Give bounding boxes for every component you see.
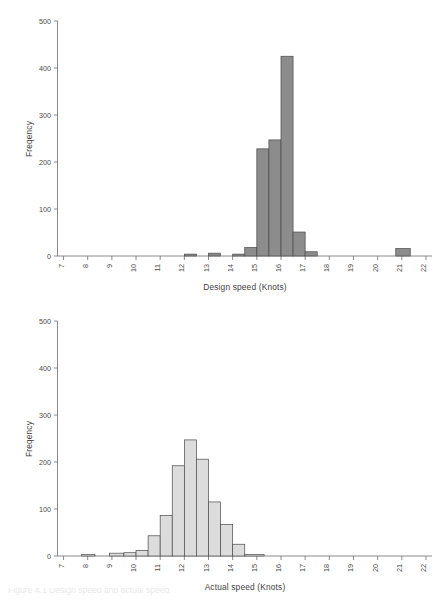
design-speed-bar [305,252,317,256]
actual-speed-bar [148,536,160,556]
design-speed-y-tick-label: 300 [39,111,51,120]
figure-caption: Figure 4.1 Design speed and actual speed [8,588,169,595]
actual-speed-x-tick-label: 7 [57,564,66,568]
design-speed-x-tick-label: 20 [371,264,380,272]
design-speed-x-tick-label: 14 [226,264,235,272]
actual-speed-y-tick-label: 400 [39,364,51,373]
actual-speed-x-tick-label: 14 [226,564,235,572]
actual-speed-bar [172,466,184,556]
y-tick-group-top: 0100200300400500 [39,17,58,261]
actual-speed-x-tick-label: 12 [177,564,186,572]
actual-speed-x-tick-label: 11 [153,564,162,571]
actual-speed-y-tick-label: 300 [39,411,51,420]
design-speed-x-tick-label: 16 [274,264,283,272]
actual-speed-histogram-svg: 0100200300400500 78910111213141516171819… [0,300,441,600]
actual-speed-bar [109,553,123,556]
actual-speed-x-tick-label: 19 [346,564,355,572]
design-speed-bar [396,248,410,256]
actual-speed-bar [184,440,196,556]
actual-speed-bar [124,553,136,556]
actual-speed-bar [233,544,245,556]
actual-speed-bar [82,555,95,556]
design-speed-bar [293,232,305,256]
design-speed-x-tick-label: 18 [322,264,331,272]
design-speed-x-tick-label: 21 [395,264,404,272]
actual-speed-x-tick-label: 16 [274,564,283,572]
design-speed-x-tick-label: 15 [250,264,259,272]
plot-area-top: 0100200300400500 78910111213141516171819… [39,17,432,272]
design-speed-y-tick-label: 200 [39,158,51,167]
actual-speed-x-tick-label: 18 [322,564,331,572]
actual-speed-x-tick-label: 17 [298,564,307,572]
design-speed-chart-panel: 0100200300400500 78910111213141516171819… [0,0,441,300]
design-speed-y-tick-label: 100 [39,205,51,214]
actual-speed-x-tick-label: 13 [202,564,211,572]
y-tick-group-bottom: 0100200300400500 [39,317,58,561]
plot-area-bottom: 0100200300400500 78910111213141516171819… [39,317,432,572]
design-speed-x-tick-label: 19 [346,264,355,272]
x-axis-title-top: Design speed (Knots) [203,282,287,292]
design-speed-bar [233,254,245,256]
actual-speed-chart-panel: 0100200300400500 78910111213141516171819… [0,300,441,600]
actual-speed-x-tick-label: 15 [250,564,259,572]
figure-caption-strip: Figure 4.1 Design speed and actual speed [0,588,441,602]
actual-speed-x-tick-label: 8 [81,564,90,568]
design-speed-x-tick-label: 10 [129,264,138,272]
x-tick-group-top: 78910111213141516171819202122 [57,256,428,272]
x-tick-group-bottom: 78910111213141516171819202122 [57,556,428,572]
design-speed-bar [269,140,281,256]
actual-speed-x-tick-label: 9 [105,564,114,568]
actual-speed-x-tick-label: 22 [419,564,428,572]
actual-speed-y-tick-label: 500 [39,317,51,326]
actual-speed-bar [245,555,264,556]
actual-speed-x-tick-label: 21 [395,564,404,572]
actual-speed-y-tick-label: 200 [39,458,51,467]
design-speed-x-tick-label: 22 [419,264,428,272]
design-speed-bar [281,56,293,256]
actual-speed-bar [136,550,148,556]
actual-speed-bar [209,502,221,556]
design-speed-x-tick-label: 13 [202,264,211,272]
design-speed-x-tick-label: 9 [105,264,114,268]
figure-container: 0100200300400500 78910111213141516171819… [0,0,441,602]
design-speed-x-tick-label: 8 [81,264,90,268]
bar-group-bottom [82,440,264,556]
design-speed-y-tick-label: 0 [47,252,51,261]
bar-group-top [184,56,410,256]
design-speed-x-tick-label: 11 [153,264,162,271]
actual-speed-bar [221,525,233,556]
design-speed-bar [209,253,221,256]
design-speed-x-tick-label: 7 [57,264,66,268]
y-axis-title-bottom: Freqency [24,420,34,457]
design-speed-bar [245,248,257,256]
actual-speed-x-tick-label: 10 [129,564,138,572]
actual-speed-x-tick-label: 20 [371,564,380,572]
actual-speed-y-tick-label: 100 [39,505,51,514]
actual-speed-bar [160,516,172,556]
design-speed-histogram-svg: 0100200300400500 78910111213141516171819… [0,0,441,300]
design-speed-bar [184,254,196,256]
design-speed-y-tick-label: 400 [39,64,51,73]
actual-speed-y-tick-label: 0 [47,552,51,561]
design-speed-bar [257,149,269,256]
y-axis-title-top: Freqency [24,120,34,157]
design-speed-y-tick-label: 500 [39,17,51,26]
design-speed-x-tick-label: 12 [177,264,186,272]
actual-speed-bar [196,459,208,556]
design-speed-x-tick-label: 17 [298,264,307,272]
